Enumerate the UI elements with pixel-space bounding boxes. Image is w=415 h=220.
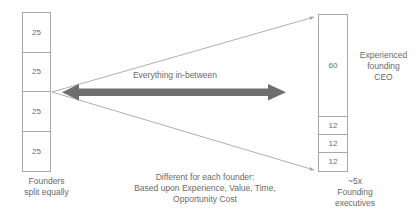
ceo-weighted-split-column: 60 12 12 12	[318, 14, 348, 172]
spectrum-arrow-label: Everything in-between	[100, 70, 250, 80]
experienced-founding-ceo-label: Experienced founding CEO	[352, 50, 415, 83]
left-cell-3: 25	[23, 92, 50, 132]
diagram-canvas: 25 25 25 25 60 12 12 12 Founders split e…	[0, 0, 415, 220]
right-cell-exec-2: 12	[319, 135, 347, 153]
founders-equal-split-column: 25 25 25 25	[22, 12, 51, 172]
right-cell-exec-3: 12	[319, 153, 347, 171]
left-cell-2: 25	[23, 53, 50, 93]
right-cell-exec-1: 12	[319, 117, 347, 135]
double-arrow-icon	[62, 84, 286, 101]
left-column-caption: Founders split equally	[0, 176, 93, 198]
center-caption: Different for each founder: Based upon E…	[100, 172, 310, 205]
right-cell-ceo: 60	[319, 15, 347, 117]
left-cell-1: 25	[23, 13, 50, 53]
left-cell-4: 25	[23, 132, 50, 172]
right-column-caption: ~5x Founding executives	[300, 176, 410, 209]
